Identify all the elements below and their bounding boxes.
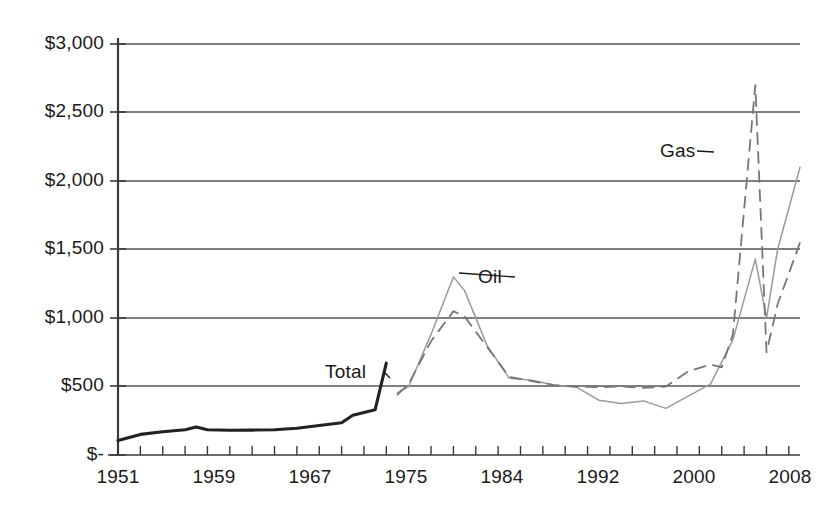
y-tick-label: $- (87, 443, 104, 465)
chart-plot-area (0, 0, 837, 521)
x-tick-label: 2000 (654, 466, 734, 488)
series-label-gas: Gas (660, 140, 695, 162)
gridlines (118, 44, 800, 386)
x-tick-label: 1975 (366, 466, 446, 488)
x-tick-label: 2008 (750, 466, 830, 488)
y-tick-label: $3,000 (45, 32, 104, 54)
x-axis-ticks (118, 446, 789, 455)
x-tick-label: 1959 (174, 466, 254, 488)
series-line-oil (398, 167, 801, 408)
y-tick-label: $2,000 (45, 169, 104, 191)
line-chart: $3,000$2,500$2,000$1,500$1,000$500$- 195… (0, 0, 837, 521)
series-label-oil: Oil (478, 266, 502, 288)
x-tick-label: 1951 (78, 466, 158, 488)
x-tick-label: 1984 (462, 466, 542, 488)
series-line-gas (398, 85, 801, 395)
y-tick-label: $1,500 (45, 237, 104, 259)
x-tick-label: 1992 (558, 466, 638, 488)
series-label-total: Total (325, 361, 366, 383)
y-tick-label: $1,000 (45, 306, 104, 328)
y-tick-label: $500 (61, 374, 104, 396)
x-tick-label: 1967 (270, 466, 350, 488)
annotation-leaders (384, 151, 714, 378)
series-layer (118, 85, 800, 441)
leader-line-gas (697, 151, 714, 152)
y-tick-label: $2,500 (45, 100, 104, 122)
